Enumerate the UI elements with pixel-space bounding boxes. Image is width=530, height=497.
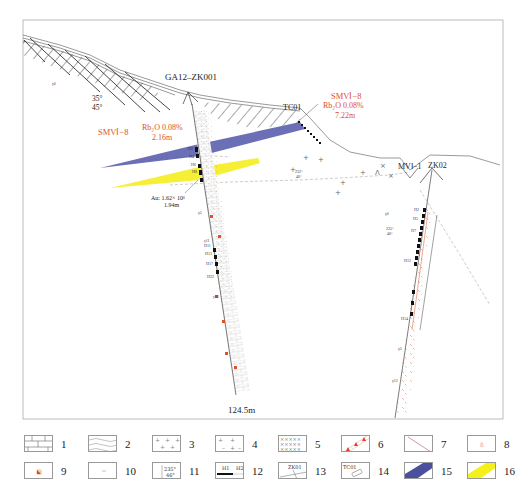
attitude-swatch: 235°46° bbox=[152, 462, 181, 479]
attitude-upper-a: 35° bbox=[92, 94, 103, 103]
tc01-label: TC01 bbox=[283, 103, 301, 112]
rb-orebody-swatch bbox=[404, 462, 433, 479]
svg-text:+: + bbox=[360, 169, 366, 177]
zk001-h2: H2 bbox=[188, 146, 193, 151]
legend-item-2: 2 bbox=[88, 435, 131, 452]
svg-text:+: + bbox=[218, 436, 223, 443]
diorite-x-swatch: ××××××××××××××× bbox=[278, 435, 307, 452]
attitude-upper-b: 45° bbox=[92, 103, 103, 112]
smv-zk001-thickness: 2.16m bbox=[152, 133, 173, 142]
legend-item-15: 15 bbox=[404, 462, 452, 479]
svg-text:46°: 46° bbox=[166, 472, 175, 478]
dash-point-swatch bbox=[88, 462, 117, 479]
limestone-brick-swatch bbox=[24, 435, 53, 452]
svg-text:+: + bbox=[175, 436, 180, 443]
zk02-y12: γ12 bbox=[392, 378, 398, 383]
zk02-h12: H12 bbox=[404, 258, 411, 263]
legend-item-10: 10 bbox=[88, 462, 136, 479]
svg-text:×××××: ××××× bbox=[280, 446, 301, 452]
au-thickness-label: 1.94m bbox=[164, 202, 180, 208]
au-grade-label: Au: 1.62× 10⁶ bbox=[151, 195, 185, 201]
svg-text:H1: H1 bbox=[222, 465, 230, 471]
legend-num-16: 16 bbox=[504, 465, 515, 477]
tc01-samples bbox=[298, 121, 321, 144]
zk001-depth-label: 124.5m bbox=[228, 405, 255, 415]
smv-tc01-thickness: 7.22m bbox=[335, 111, 356, 120]
legend-num-3: 3 bbox=[189, 438, 195, 450]
drillhole-swatch: ZK01 bbox=[278, 462, 307, 479]
gamma-label-right: γδ bbox=[385, 211, 389, 216]
smv-tc01-label: SMVⅠ−8 bbox=[331, 91, 361, 101]
zk02-h5: H5 bbox=[413, 216, 418, 221]
svg-text:+: + bbox=[303, 154, 309, 162]
svg-text:+: + bbox=[230, 436, 235, 443]
zk02-h14: H14 bbox=[401, 316, 408, 321]
legend-item-11: 235°46° 11 bbox=[152, 462, 200, 479]
svg-text:ZK01: ZK01 bbox=[288, 464, 302, 470]
svg-text:+: + bbox=[170, 443, 175, 450]
svg-text:–: – bbox=[222, 444, 225, 451]
svg-text:×: × bbox=[380, 162, 386, 170]
zk001-y13: γ13 bbox=[213, 294, 219, 299]
legend-num-7: 7 bbox=[441, 438, 447, 450]
zk02-y5: γ5 bbox=[398, 346, 402, 351]
zk001-h4: H4 bbox=[189, 154, 194, 159]
legend-item-14: TC01 14 bbox=[341, 462, 389, 479]
gamma-label-left: γδ bbox=[52, 81, 56, 86]
zk001-h11: H11 bbox=[204, 243, 211, 248]
sample-bar-swatch: H1H2 bbox=[215, 462, 244, 479]
legend-item-13: ZK01 13 bbox=[278, 462, 326, 479]
zk001-h6: H6 bbox=[191, 162, 196, 167]
legend-item-3: +++++ 3 bbox=[152, 435, 195, 452]
zk001-h17: H17 bbox=[206, 261, 213, 266]
trench-swatch: TC01 bbox=[341, 462, 370, 479]
orange-point-swatch bbox=[24, 462, 53, 479]
svg-text:+: + bbox=[335, 189, 341, 197]
legend-item-16: 16 bbox=[467, 462, 515, 479]
svg-text:TC01: TC01 bbox=[343, 464, 357, 470]
legend-num-9: 9 bbox=[61, 465, 67, 477]
zk001-label: GA12–ZK001 bbox=[165, 72, 217, 82]
smv-zk001-label: SMVⅠ−8 bbox=[98, 127, 128, 137]
zk001-y5: γ5 bbox=[198, 210, 202, 215]
legend-item-1: 1 bbox=[24, 435, 67, 452]
svg-text:H2: H2 bbox=[236, 465, 244, 471]
svg-text:×: × bbox=[388, 172, 394, 180]
svg-text:+: + bbox=[155, 436, 160, 443]
legend-num-14: 14 bbox=[378, 465, 389, 477]
zk02-label: ZK02 bbox=[428, 161, 447, 170]
svg-text:+: + bbox=[230, 444, 235, 451]
smv-zk001-grade: Rb₂O 0.08% bbox=[142, 123, 183, 132]
granite-plus-symbols: ++ ++ ++ ××Λ bbox=[290, 154, 394, 197]
legend-item-12: H1H2 12 bbox=[215, 462, 263, 479]
legend-num-8: 8 bbox=[504, 438, 510, 450]
legend-num-6: 6 bbox=[378, 438, 384, 450]
smv-tc01-grade: Rb₂O 0.08% bbox=[323, 101, 364, 110]
svg-text:+: + bbox=[318, 156, 324, 164]
cross-section-diagram: ++ ++ ++ ××Λ GA12–ZK001 124.5m TC01 ZK02… bbox=[0, 0, 530, 497]
granite-plus-swatch: +++++ bbox=[152, 435, 181, 452]
svg-text:+: + bbox=[160, 443, 165, 450]
zk02-h2: H2 bbox=[414, 207, 419, 212]
legend-item-9: 9 bbox=[24, 462, 67, 479]
attitude-right-b: 46° bbox=[387, 231, 393, 236]
svg-text:δ: δ bbox=[480, 441, 484, 448]
legend-num-11: 11 bbox=[189, 465, 200, 477]
mv-section-label: MVⅠ−1 bbox=[398, 162, 421, 171]
zk001-h13: H13 bbox=[205, 251, 212, 256]
legend-item-8: δ 8 bbox=[467, 435, 510, 452]
zk001-h8: H8 bbox=[192, 169, 197, 174]
legend-num-15: 15 bbox=[441, 465, 452, 477]
legend-num-2: 2 bbox=[125, 438, 131, 450]
svg-text:+: + bbox=[165, 436, 170, 443]
schist-swatch bbox=[88, 435, 117, 452]
legend-item-5: ××××××××××××××× 5 bbox=[278, 435, 321, 452]
legend-num-1: 1 bbox=[61, 438, 67, 450]
pink-point-swatch: δ bbox=[467, 435, 496, 452]
legend-item-4: ++–+– 4 bbox=[215, 435, 258, 452]
legend-num-4: 4 bbox=[252, 438, 258, 450]
svg-text:+: + bbox=[340, 179, 346, 187]
legend-item-7: 7 bbox=[404, 435, 447, 452]
svg-text:–: – bbox=[238, 444, 241, 451]
red-triangle-swatch bbox=[341, 435, 370, 452]
